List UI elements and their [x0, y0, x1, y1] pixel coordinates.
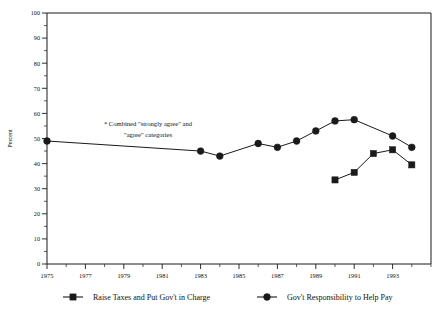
axis-lines: [47, 13, 431, 264]
data-point: [197, 148, 204, 155]
data-point: [293, 138, 300, 145]
x-tick-label: 1977: [79, 272, 93, 279]
y-tick-label: 80: [34, 60, 40, 67]
y-tick-label: 20: [34, 210, 40, 217]
legend-label: Gov't Responsibility to Help Pay: [287, 293, 392, 302]
data-point: [44, 138, 51, 145]
data-point: [408, 144, 415, 151]
y-tick-label: 100: [31, 9, 40, 16]
x-tick-label: 1993: [386, 272, 399, 279]
data-point: [332, 118, 339, 125]
y-tick-label: 70: [34, 85, 40, 92]
data-point: [274, 144, 281, 151]
series-2: [332, 147, 415, 183]
y-tick-label: 0: [37, 260, 40, 267]
x-tick-label: 1983: [194, 272, 207, 279]
y-tick-label: 30: [34, 185, 40, 192]
x-tick-label: 1987: [271, 272, 285, 279]
x-tick-label: 1981: [156, 272, 169, 279]
data-point: [351, 169, 357, 175]
series-line: [47, 120, 412, 156]
data-point: [389, 133, 396, 140]
x-tick-label: 1991: [348, 272, 361, 279]
y-tick-label: 50: [34, 135, 40, 142]
legend-circle-marker-icon: [264, 294, 271, 301]
chart-annotation-line2: "agree" categories: [124, 131, 172, 138]
x-tick-label: 1975: [41, 272, 54, 279]
chart-annotation-line1: * Combined "strongly agree" and: [104, 120, 193, 127]
legend-square-marker-icon: [70, 294, 76, 300]
plot-frame: [47, 13, 431, 264]
series-1: [44, 116, 416, 159]
data-point: [390, 147, 396, 153]
y-tick-label: 90: [34, 34, 40, 41]
line-chart: 0102030405060708090100197519771979198119…: [0, 0, 444, 311]
data-point: [351, 116, 358, 123]
data-point: [332, 177, 338, 183]
chart-container: 0102030405060708090100197519771979198119…: [0, 0, 444, 311]
y-tick-label: 60: [34, 110, 40, 117]
y-tick-label: 10: [34, 235, 40, 242]
data-point: [409, 162, 415, 168]
data-point: [370, 150, 376, 156]
legend-item-2[interactable]: Gov't Responsibility to Help Pay: [257, 293, 392, 302]
legend-label: Raise Taxes and Put Gov't in Charge: [93, 293, 210, 302]
data-point: [216, 153, 223, 160]
data-point: [255, 140, 262, 147]
x-tick-label: 1989: [309, 272, 322, 279]
legend-item-1[interactable]: Raise Taxes and Put Gov't in Charge: [63, 293, 210, 302]
y-axis-title: Percent: [6, 129, 13, 148]
y-tick-label: 40: [34, 160, 40, 167]
data-point: [312, 128, 319, 135]
x-tick-label: 1979: [117, 272, 130, 279]
x-tick-label: 1985: [233, 272, 246, 279]
